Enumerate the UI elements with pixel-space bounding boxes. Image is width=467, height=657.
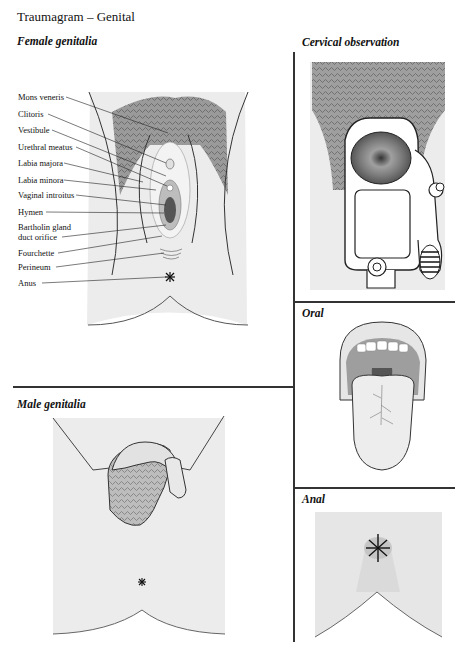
anal-diagram xyxy=(0,0,467,657)
